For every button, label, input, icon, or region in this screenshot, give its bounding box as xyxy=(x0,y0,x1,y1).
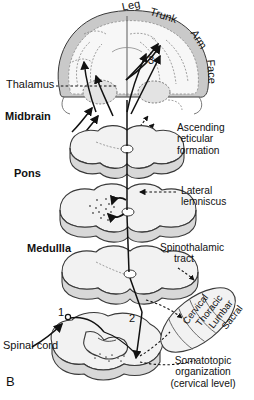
label-midbrain: Midbrain xyxy=(5,111,51,123)
callout-lateral-lemniscus: Lateral lemniscus xyxy=(181,185,251,208)
marker-second-order-neuron: 2 xyxy=(129,313,135,325)
callout-ascending-reticular-formation: Ascending reticular formation xyxy=(177,122,251,156)
callout-line: tract xyxy=(160,253,252,264)
callout-line: lemniscus xyxy=(181,196,251,207)
callout-line: Ascending xyxy=(177,122,251,133)
spinal-cord-section xyxy=(51,312,163,380)
marker-first-order-neuron: 1 xyxy=(58,307,64,319)
callout-line: (cervical level) xyxy=(154,378,252,389)
callout-line: Somatotopic xyxy=(154,355,252,366)
callout-somatotopic-organization: Somatotopic organization (cervical level… xyxy=(154,355,252,389)
callout-spinothalamic-tract: Spinothalamic tract xyxy=(160,242,252,265)
figure-canvas: Leg Trunk Arm Face Thalamus Midbrain Pon… xyxy=(0,0,254,400)
callout-line: formation xyxy=(177,145,251,156)
callout-line: Lateral xyxy=(181,185,251,196)
callout-line: Spinothalamic xyxy=(160,242,252,253)
label-spinal-cord: Spinal cord xyxy=(3,340,58,352)
callout-line: reticular xyxy=(177,133,251,144)
panel-label: B xyxy=(6,375,15,389)
cortex-label-face: Face xyxy=(204,59,217,84)
label-medulla: Medullla xyxy=(27,243,71,255)
cerebrum-section xyxy=(58,10,208,114)
callout-line: organization xyxy=(154,366,252,377)
marker-third-order-neuron: 3 xyxy=(148,55,154,67)
label-thalamus: Thalamus xyxy=(6,79,54,91)
label-pons: Pons xyxy=(14,168,41,180)
